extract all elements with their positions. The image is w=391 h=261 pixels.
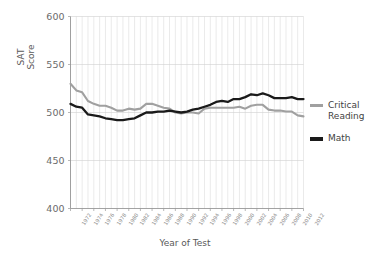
y-tick-label: 600: [31, 11, 65, 22]
legend-item: Math: [310, 133, 390, 144]
legend-item-label: Critical Reading: [328, 100, 365, 122]
y-tick-label: 400: [31, 203, 65, 214]
legend-swatch-icon: [310, 137, 323, 141]
legend-item-label: Math: [328, 133, 351, 144]
legend-swatch-icon: [310, 104, 323, 107]
legend-item: Critical Reading: [310, 100, 390, 122]
chart-legend: Critical ReadingMath: [310, 100, 390, 155]
y-tick-label: 500: [31, 107, 65, 118]
x-axis-title: Year of Test: [120, 238, 250, 248]
y-axis-title: SAT Score: [16, 22, 36, 92]
sat-score-line-chart: 400450500550600 197219741976197819801982…: [0, 0, 391, 261]
y-tick-label: 450: [31, 155, 65, 166]
